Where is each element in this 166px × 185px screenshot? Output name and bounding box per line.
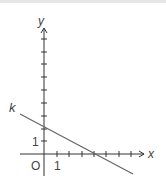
origin-label: O xyxy=(31,159,40,173)
coordinate-plane: y x k O 1 1 xyxy=(0,0,166,185)
x-tick-label-1: 1 xyxy=(54,159,61,173)
x-axis-label: x xyxy=(147,147,155,161)
line-k-label: k xyxy=(9,100,17,115)
y-tick-label-1: 1 xyxy=(32,135,39,149)
y-axis-label: y xyxy=(37,14,45,28)
